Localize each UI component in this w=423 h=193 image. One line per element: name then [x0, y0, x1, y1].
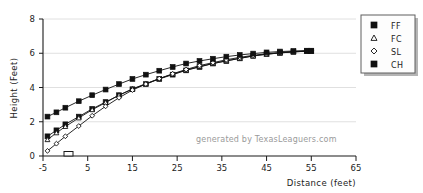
chart-screenshot: 02468 -55152535455565 generated by Texas… [0, 0, 423, 193]
watermark-text: generated by TexasLeaguers.com [196, 135, 337, 144]
data-point-marker [90, 93, 95, 98]
data-point-marker [224, 54, 229, 59]
data-point-marker [264, 50, 269, 55]
data-point-marker [291, 49, 296, 54]
y-tick-label: 2 [30, 117, 35, 127]
x-tick-label: 45 [261, 163, 272, 173]
data-point-marker [211, 56, 216, 61]
legend-box [361, 15, 415, 73]
x-tick-label: 65 [351, 163, 362, 173]
x-axis-title: Distance (feet) [287, 178, 356, 188]
y-tick-label: 0 [30, 151, 35, 161]
data-point-marker [157, 68, 162, 73]
data-point-marker [371, 61, 377, 67]
y-tick-label: 8 [30, 14, 35, 24]
legend-label: FF [391, 22, 401, 31]
y-axis-title: Height (Feet) [9, 58, 19, 119]
home-plate-icon [64, 152, 73, 157]
x-tick-label: 35 [216, 163, 227, 173]
x-tick-label: 15 [127, 163, 138, 173]
data-point-marker [54, 110, 59, 115]
data-point-marker [184, 61, 189, 66]
data-point-marker [143, 72, 148, 77]
x-tick-label: 5 [85, 163, 90, 173]
x-tick-label: 25 [172, 163, 183, 173]
data-point-marker [371, 22, 377, 28]
data-point-marker [130, 77, 135, 82]
data-point-marker [237, 53, 242, 58]
data-point-marker [304, 48, 309, 53]
data-point-marker [309, 48, 314, 53]
data-point-marker [170, 65, 175, 70]
y-tick-label: 4 [30, 83, 35, 93]
y-tick-label: 6 [30, 48, 35, 58]
data-point-marker [63, 105, 68, 110]
data-point-marker [251, 51, 256, 56]
data-point-marker [45, 114, 50, 119]
pitch-trajectory-chart: 02468 -55152535455565 generated by Texas… [0, 0, 423, 193]
data-point-marker [197, 59, 202, 64]
data-point-marker [117, 82, 122, 87]
data-point-marker [278, 49, 283, 54]
data-point-marker [76, 99, 81, 104]
data-point-marker [103, 87, 108, 92]
legend-label: SL [391, 48, 401, 57]
x-tick-label: 55 [306, 163, 317, 173]
legend-label: CH [391, 61, 403, 70]
x-tick-label: -5 [39, 163, 47, 173]
legend-label: FC [391, 35, 402, 44]
